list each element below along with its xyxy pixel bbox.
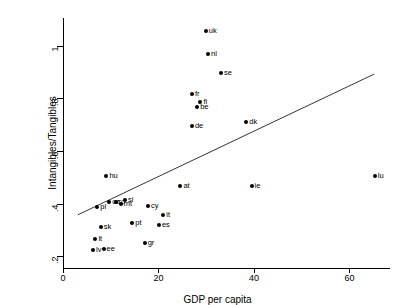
x-tick-label: 40 bbox=[239, 274, 269, 283]
data-point bbox=[130, 221, 134, 225]
data-point-label: ee bbox=[107, 245, 115, 253]
data-point-label: de bbox=[195, 122, 203, 130]
data-point bbox=[91, 248, 95, 252]
data-point bbox=[95, 205, 99, 209]
data-point-label: be bbox=[200, 103, 208, 111]
data-point-label: sk bbox=[104, 223, 112, 231]
data-point bbox=[250, 184, 254, 188]
data-point-label: nl bbox=[211, 50, 217, 58]
data-point bbox=[219, 71, 223, 75]
data-point bbox=[373, 174, 377, 178]
data-point bbox=[102, 247, 106, 251]
data-point bbox=[157, 223, 161, 227]
data-point bbox=[190, 92, 194, 96]
x-tick-label: 20 bbox=[143, 274, 173, 283]
data-point-label: pt bbox=[135, 219, 141, 227]
data-point bbox=[107, 200, 111, 204]
data-point-label: fr bbox=[195, 90, 200, 98]
data-point-label: it bbox=[166, 211, 170, 219]
x-axis-title: GDP per capita bbox=[45, 294, 390, 305]
data-point bbox=[143, 241, 147, 245]
data-point-label: hu bbox=[109, 172, 117, 180]
data-point-label: ie bbox=[255, 182, 261, 190]
data-point bbox=[190, 124, 194, 128]
data-point bbox=[99, 225, 103, 229]
y-axis-title: Intangibles/Tangibles bbox=[47, 18, 59, 268]
data-point-label: lt bbox=[98, 235, 102, 243]
data-point bbox=[244, 120, 248, 124]
data-point-label: cy bbox=[151, 202, 159, 210]
data-point-label: mt bbox=[124, 200, 132, 208]
x-axis-line bbox=[63, 268, 390, 269]
x-tick-label: 0 bbox=[48, 274, 78, 283]
data-point bbox=[204, 29, 208, 33]
data-point-label: cz bbox=[112, 198, 120, 206]
data-point-label: se bbox=[224, 69, 232, 77]
plot-area: .2.4.6.81 0204060 uknlsefrfibedkdehuluat… bbox=[45, 18, 390, 268]
x-tick-label: 60 bbox=[334, 274, 364, 283]
data-point-label: pl bbox=[100, 203, 106, 211]
data-point bbox=[104, 174, 108, 178]
data-point bbox=[146, 204, 150, 208]
data-point-label: es bbox=[162, 221, 170, 229]
data-point bbox=[161, 213, 165, 217]
data-point bbox=[195, 105, 199, 109]
data-point-label: at bbox=[183, 182, 189, 190]
data-point-label: dk bbox=[249, 118, 257, 126]
data-point-label: lv bbox=[96, 246, 101, 254]
data-points-layer: uknlsefrfibedkdehuluatiesiromtczcyplitpt… bbox=[45, 18, 390, 268]
data-point bbox=[93, 237, 97, 241]
data-point bbox=[178, 184, 182, 188]
data-point-label: lu bbox=[378, 172, 384, 180]
data-point-label: uk bbox=[209, 27, 217, 35]
data-point bbox=[206, 52, 210, 56]
data-point-label: gr bbox=[148, 239, 155, 247]
